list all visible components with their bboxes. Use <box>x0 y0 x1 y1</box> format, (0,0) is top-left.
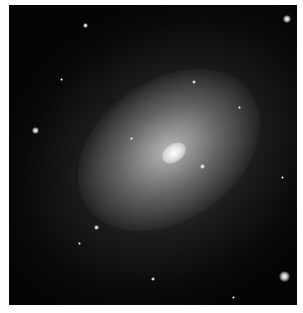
star <box>60 78 63 81</box>
star <box>279 271 290 282</box>
star <box>238 106 241 109</box>
star <box>32 127 39 134</box>
star <box>192 80 196 84</box>
star <box>281 176 284 179</box>
star <box>151 277 155 281</box>
star <box>232 296 235 299</box>
star <box>94 225 99 230</box>
star <box>78 242 81 245</box>
galaxy-image <box>9 5 297 305</box>
star <box>283 15 291 23</box>
star <box>200 164 205 169</box>
star <box>83 23 88 28</box>
star <box>130 137 133 140</box>
dust-spot <box>104 97 114 105</box>
